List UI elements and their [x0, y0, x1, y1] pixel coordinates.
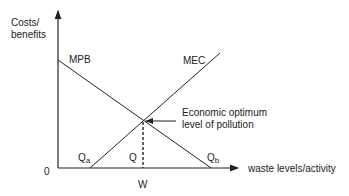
qa-label: Qa [78, 152, 90, 167]
qb-base: Q [207, 152, 215, 163]
q-label: Q [129, 152, 137, 164]
qb-sub: b [215, 156, 219, 165]
mpb-label: MPB [69, 54, 91, 66]
annotation-line1: Economic optimum [182, 107, 267, 119]
qb-label: Qb [207, 152, 219, 167]
qa-base: Q [78, 152, 86, 163]
annotation-text: Economic optimum level of pollution [182, 107, 267, 131]
qa-sub: a [86, 156, 90, 165]
mec-label: MEC [183, 55, 205, 67]
y-axis-label-line2: benefits [11, 29, 46, 41]
annotation-line2: level of pollution [182, 119, 267, 131]
y-axis-label-line1: Costs/ [11, 17, 46, 29]
y-axis-label: Costs/ benefits [11, 17, 46, 41]
origin-label: 0 [44, 166, 50, 178]
w-label: W [138, 179, 147, 191]
x-axis-label: waste levels/activity [248, 163, 336, 175]
